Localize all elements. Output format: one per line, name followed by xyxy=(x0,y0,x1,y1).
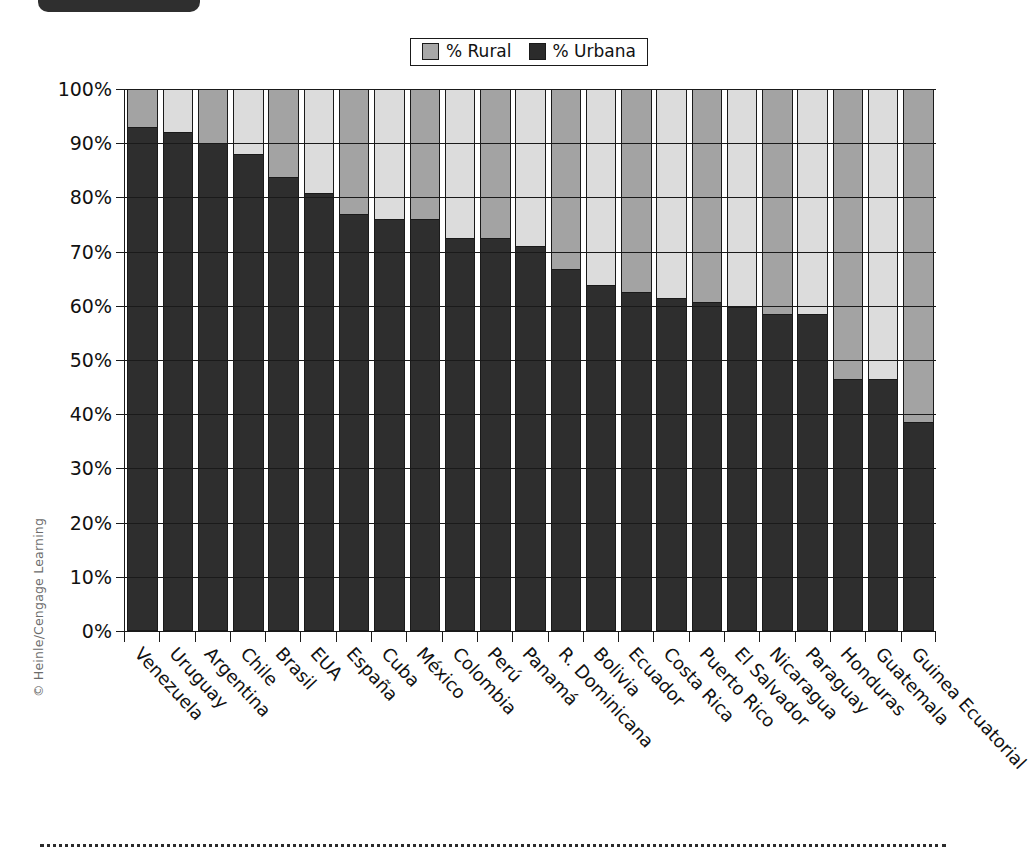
y-axis-tick-mark xyxy=(116,523,125,524)
y-axis-tick-label: 50% xyxy=(32,349,112,371)
bar-segment-rural xyxy=(268,89,298,177)
x-axis-tick-mark xyxy=(759,631,794,642)
top-cropped-tab xyxy=(38,0,200,12)
x-axis-tick-mark xyxy=(159,631,194,642)
bar-segment-rural xyxy=(797,89,827,314)
legend-swatch-urbana-icon xyxy=(529,43,546,60)
bar-segment-urbana xyxy=(868,379,898,631)
bar-segment-urbana xyxy=(127,127,157,631)
gridline xyxy=(125,89,936,90)
x-axis-tick-mark xyxy=(230,631,265,642)
bar-segment-urbana xyxy=(304,193,334,631)
bar-segment-urbana xyxy=(198,143,228,631)
y-axis-tick-label: 40% xyxy=(32,403,112,425)
x-axis-tick-mark xyxy=(724,631,759,642)
bar-segment-rural xyxy=(515,89,545,246)
bar-segment-rural xyxy=(621,89,651,292)
bar-segment-urbana xyxy=(445,238,475,631)
bar-segment-urbana xyxy=(233,154,263,631)
bar-segment-urbana xyxy=(692,302,722,631)
legend-label-rural: % Rural xyxy=(446,43,512,60)
x-axis-tick-mark xyxy=(548,631,583,642)
x-axis-tick-mark xyxy=(512,631,547,642)
x-axis-tick-mark xyxy=(901,631,936,642)
bar-segment-rural xyxy=(339,89,369,214)
gridline xyxy=(125,468,936,469)
y-axis-tick-mark xyxy=(116,360,125,361)
bar-segment-rural xyxy=(163,89,193,132)
bar-segment-urbana xyxy=(762,314,792,631)
bar-segment-urbana xyxy=(833,379,863,631)
bar-segment-rural xyxy=(762,89,792,314)
bar-segment-rural xyxy=(868,89,898,379)
bar-segment-rural xyxy=(304,89,334,193)
bar-segment-rural xyxy=(127,89,157,127)
gridline xyxy=(125,197,936,198)
x-axis-tick-mark xyxy=(618,631,653,642)
x-axis-tick-mark xyxy=(300,631,335,642)
bar-segment-rural xyxy=(374,89,404,219)
bar-segment-rural xyxy=(233,89,263,154)
x-axis-tick-mark xyxy=(653,631,688,642)
bar-segment-rural xyxy=(692,89,722,302)
y-axis-tick-label: 80% xyxy=(32,186,112,208)
gridline xyxy=(125,523,936,524)
y-axis-tick-label: 10% xyxy=(32,566,112,588)
bar-segment-urbana xyxy=(268,177,298,631)
bar-segment-urbana xyxy=(410,219,440,631)
bar-segment-urbana xyxy=(903,422,933,631)
y-axis-tick-mark xyxy=(116,89,125,90)
bar-segment-urbana xyxy=(656,298,686,631)
bar-segment-rural xyxy=(445,89,475,238)
y-axis-tick-label: 60% xyxy=(32,295,112,317)
legend-item-urbana: % Urbana xyxy=(529,43,636,60)
x-axis-tick-mark xyxy=(265,631,300,642)
x-axis-tick-mark xyxy=(124,631,159,642)
y-axis-tick-label: 20% xyxy=(32,512,112,534)
y-axis-tick-label: 30% xyxy=(32,457,112,479)
x-axis-tick-mark xyxy=(371,631,406,642)
y-axis-tick-mark xyxy=(116,468,125,469)
bar-segment-rural xyxy=(551,89,581,269)
bar-segment-rural xyxy=(656,89,686,298)
bottom-dotted-divider xyxy=(40,844,946,847)
y-axis-tick-mark xyxy=(116,143,125,144)
bar-segment-rural xyxy=(586,89,616,285)
x-axis-tick-mark xyxy=(195,631,230,642)
bar-segment-urbana xyxy=(515,246,545,631)
y-axis-tick-label: 0% xyxy=(32,620,112,642)
bar-segment-rural xyxy=(833,89,863,379)
chart-plot-area: 0%10%20%30%40%50%60%70%80%90%100% xyxy=(124,89,936,631)
y-axis-tick-mark xyxy=(116,414,125,415)
gridline xyxy=(125,143,936,144)
bar-segment-urbana xyxy=(586,285,616,631)
bar-segment-urbana xyxy=(339,214,369,631)
x-axis-labels: VenezuelaUruguayArgentinaChileBrasilEUAE… xyxy=(124,643,936,823)
legend-swatch-rural-icon xyxy=(422,43,439,60)
legend-label-urbana: % Urbana xyxy=(553,43,636,60)
x-axis-tick-mark xyxy=(689,631,724,642)
bar-segment-urbana xyxy=(374,219,404,631)
gridline xyxy=(125,577,936,578)
bar-segment-urbana xyxy=(163,132,193,631)
y-axis-tick-label: 100% xyxy=(32,78,112,100)
y-axis-tick-mark xyxy=(116,306,125,307)
legend-item-rural: % Rural xyxy=(422,43,512,60)
chart-legend: % Rural % Urbana xyxy=(410,38,648,66)
x-axis-tick-mark xyxy=(477,631,512,642)
y-axis-tick-mark xyxy=(116,577,125,578)
bar-segment-rural xyxy=(198,89,228,143)
x-axis-ticks xyxy=(124,631,936,642)
x-axis-tick-mark xyxy=(865,631,900,642)
bar-segment-rural xyxy=(903,89,933,422)
bar-segment-urbana xyxy=(797,314,827,631)
x-axis-tick-mark xyxy=(442,631,477,642)
y-axis-tick-mark xyxy=(116,197,125,198)
plot-frame: 0%10%20%30%40%50%60%70%80%90%100% xyxy=(124,89,936,631)
x-axis-tick-mark xyxy=(830,631,865,642)
bar-segment-urbana xyxy=(480,238,510,631)
x-axis-tick-mark xyxy=(336,631,371,642)
y-axis-tick-mark xyxy=(116,252,125,253)
gridline xyxy=(125,360,936,361)
y-axis-tick-label: 70% xyxy=(32,241,112,263)
